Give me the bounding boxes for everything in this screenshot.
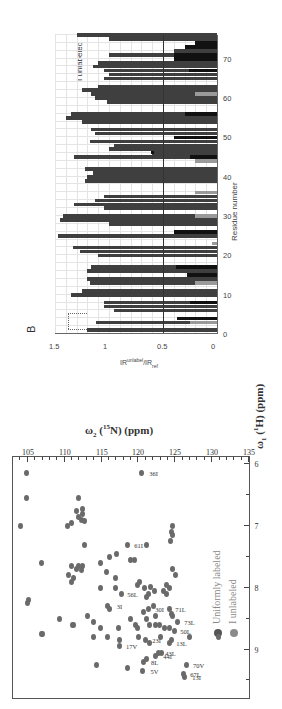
grid-line-v [55, 184, 217, 185]
bar-bottom-segment [195, 41, 217, 45]
y-minor-tick-a [78, 457, 79, 460]
nmr-peak [65, 523, 70, 529]
nmr-peak [107, 554, 112, 560]
bar-bottom-segment [185, 112, 217, 116]
bar-dark [71, 293, 217, 297]
bar-dark [87, 277, 217, 281]
x-minor-tick-a [246, 649, 249, 650]
dotted-marker [68, 329, 87, 330]
nmr-peak [167, 625, 172, 631]
y-tick-label-b: 0.5 [157, 342, 167, 351]
grid-line-h [55, 35, 56, 334]
bar-dark [90, 140, 217, 144]
bar-dark [60, 218, 217, 222]
nmr-peak [161, 588, 166, 594]
grid-line-v [55, 105, 217, 106]
bar-bottom-segment [195, 214, 217, 218]
nmr-peak [98, 585, 103, 591]
y-minor-tick-a [49, 457, 50, 460]
bar-bottom-segment [195, 281, 217, 285]
x-tick-label-a: 8 [255, 583, 259, 592]
nmr-peak [132, 557, 137, 563]
y-minor-tick-a [34, 457, 35, 460]
nmr-peak [170, 523, 175, 529]
data-marker [151, 151, 154, 154]
bar-dark [95, 199, 217, 203]
x-tick-label-b: 30 [223, 212, 231, 221]
x-axis-label-a: ω1 (1H) (ppm) [252, 384, 268, 449]
bar-bottom-segment [185, 45, 217, 49]
y-minor-tick-a [123, 457, 124, 460]
y-minor-tick-a [42, 457, 43, 460]
legend-unlabeled-label: I unlabeled [227, 579, 238, 624]
y-minor-tick-a [160, 457, 161, 460]
nmr-peak [152, 588, 157, 594]
y-minor-tick-a [27, 457, 28, 460]
y-tick-label-a: 120 [132, 448, 144, 457]
bar-dark [152, 151, 217, 155]
x-minor-tick-a [246, 494, 249, 495]
y-minor-tick-a [174, 457, 175, 460]
bar-dark [77, 33, 217, 37]
y-tick-label-b: 1.5 [49, 342, 59, 351]
grid-line-h [66, 35, 67, 334]
bar-dark [114, 144, 217, 148]
y-minor-tick-a [152, 457, 153, 460]
x-tick-label-b: 70 [223, 55, 231, 64]
nmr-peak [69, 563, 74, 569]
bar-bottom-segment [195, 92, 217, 96]
nmr-peak [170, 613, 175, 619]
y-tick-label-a: 115 [96, 448, 108, 457]
bar-bottom-segment [195, 159, 217, 163]
reference-line [163, 35, 164, 334]
bar-dark [93, 65, 217, 69]
x-tick-label-a: 7 [255, 521, 259, 530]
bar-dark [104, 195, 217, 199]
bar-bottom-segment [195, 191, 217, 195]
bar-bottom-segment [187, 273, 217, 277]
nmr-peak [125, 665, 130, 671]
x-tick-label-b: 60 [223, 94, 231, 103]
peak-label: 13L [176, 640, 186, 647]
nmr-peak [144, 594, 149, 600]
nmr-peak [135, 625, 140, 631]
bar-dark [104, 305, 217, 309]
bar-bottom-segment [174, 57, 217, 61]
bar-dark [82, 120, 217, 124]
y-minor-tick-a [226, 457, 227, 460]
rotated-figure: A ω1 (1H) (ppm) ω2 (15N) (ppm) Uniformly… [0, 0, 282, 709]
peak-label: 56L [127, 590, 137, 597]
bar-dark [93, 171, 217, 175]
bar-dark [104, 206, 217, 210]
grid-line-v [55, 191, 217, 192]
nmr-peak [170, 532, 175, 538]
nmr-peak [80, 506, 85, 512]
grid-line-h [77, 35, 78, 334]
peak-label: 61I [134, 541, 143, 548]
peak-label: 73L [184, 618, 194, 625]
x-tick-label-b: 20 [223, 251, 231, 260]
nmr-peak [147, 622, 152, 628]
bar-dark [174, 49, 217, 53]
bar-dark [98, 254, 217, 258]
peak-label: 13I [192, 674, 201, 681]
y-tick-label-b: 1 [103, 342, 107, 351]
bar-dark [87, 269, 217, 273]
nmr-peak [187, 634, 192, 640]
grid-line-v [55, 160, 217, 161]
nmr-peak [76, 495, 81, 501]
peak-label: 17V [126, 643, 137, 650]
y-minor-tick-a [241, 457, 242, 460]
x-tick-label-b: 40 [223, 173, 231, 182]
y-minor-tick-a [211, 457, 212, 460]
bar-dark [82, 88, 217, 92]
bar-dark [98, 85, 217, 89]
y-minor-tick-a [219, 457, 220, 460]
nmr-peak [82, 518, 87, 524]
nmr-peak [172, 628, 177, 634]
bar-dark [98, 61, 217, 65]
x-tick-label-a: 9 [255, 645, 259, 654]
nmr-peak [170, 566, 175, 572]
bar-dark [85, 167, 217, 171]
x-axis-b [217, 35, 218, 334]
